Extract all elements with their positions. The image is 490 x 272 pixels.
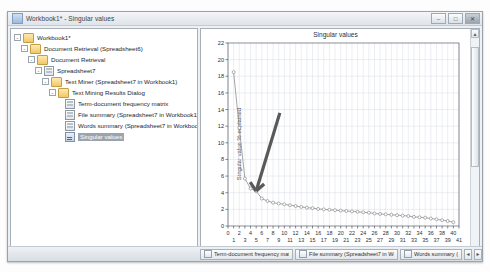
svg-text:8: 8 [221, 156, 224, 162]
graph-icon [65, 132, 75, 142]
svg-text:10: 10 [281, 230, 287, 236]
taskbar-buttons[interactable]: Term-document frequency matrixFile summa… [198, 249, 482, 260]
svg-text:29: 29 [388, 237, 394, 243]
svg-text:0: 0 [221, 223, 224, 229]
tree-item[interactable]: -Text Miner (Spreadsheet7 in Workbook1) [14, 76, 195, 87]
sheet-icon [65, 99, 75, 109]
taskbar-button[interactable]: Words summary (Spr [400, 249, 462, 260]
svg-text:31: 31 [400, 237, 406, 243]
taskbar-prev-icon[interactable]: ◄ [464, 249, 472, 260]
tree-item[interactable]: -Workbook1* [14, 32, 195, 43]
svg-text:20: 20 [218, 57, 224, 63]
svg-text:1: 1 [232, 237, 235, 243]
svg-text:25: 25 [366, 237, 372, 243]
collapse-icon[interactable]: - [35, 67, 42, 74]
svg-text:12: 12 [218, 123, 224, 129]
svg-text:4: 4 [221, 190, 224, 196]
sheet-icon [65, 110, 75, 120]
taskbar-button-label: File summary (Spreadsheet7 in Workbook1) [309, 251, 394, 257]
sheet-icon [204, 250, 212, 258]
tree-item-label: Words summary (Spreadsheet7 in Workbook1… [78, 122, 197, 130]
svg-text:26: 26 [371, 230, 377, 236]
tree-item[interactable]: Words summary (Spreadsheet7 in Workbook1… [14, 120, 195, 131]
taskbar-button[interactable]: Term-document frequency matrix [200, 249, 293, 260]
window-controls: – □ ✕ [431, 13, 480, 24]
svg-text:9: 9 [277, 237, 280, 243]
window-title: Workbook1* - Singular values [26, 15, 114, 22]
collapse-icon[interactable]: - [49, 89, 56, 96]
window-body: -Workbook1*-Document Retrieval (Spreadsh… [8, 26, 482, 262]
minimize-button[interactable]: – [431, 13, 446, 24]
tree-item-label: Term-document frequency matrix [78, 100, 168, 108]
collapse-icon[interactable]: - [21, 45, 28, 52]
svg-text:0: 0 [227, 230, 230, 236]
tree-item-label: File summary (Spreadsheet7 in Workbook1) [78, 111, 197, 119]
svg-text:41: 41 [456, 237, 462, 243]
folder-icon [30, 44, 41, 54]
tree-item[interactable]: -Text Mining Results Dialog [14, 87, 195, 98]
collapse-icon[interactable]: - [28, 56, 35, 63]
tree-item-label: Text Miner (Spreadsheet7 in Workbook1) [65, 78, 177, 86]
tree-item-label: Singular values [78, 133, 124, 141]
chart-scroll-thumb[interactable] [471, 47, 479, 167]
scree-plot: 0246810121416182022024681012141618202224… [201, 29, 467, 261]
svg-text:2: 2 [238, 230, 241, 236]
workbook-tree-panel: -Workbook1*-Document Retrieval (Spreadsh… [10, 28, 198, 260]
sheet-icon [44, 66, 54, 76]
tree-item[interactable]: Singular values [14, 131, 195, 142]
sheet-icon [65, 121, 75, 131]
folder-icon [37, 55, 48, 65]
tree-item[interactable]: -Document Retrieval [14, 54, 195, 65]
svg-text:30: 30 [394, 230, 400, 236]
tree-spacer [56, 111, 63, 118]
chart-panel: Singular values Singular value % explain… [200, 28, 480, 260]
svg-text:2: 2 [221, 206, 224, 212]
svg-text:13: 13 [298, 237, 304, 243]
svg-text:14: 14 [304, 230, 310, 236]
tree-item-label: Workbook1* [37, 34, 71, 42]
svg-text:4: 4 [249, 230, 252, 236]
taskbar-next-icon[interactable]: ► [474, 249, 482, 260]
svg-text:18: 18 [218, 73, 224, 79]
tree-item-label: Spreadsheet7 [57, 67, 96, 75]
taskbar-button-label: Words summary (Spr [414, 251, 458, 257]
scroll-up-arrow-icon[interactable]: ▲ [471, 29, 479, 38]
svg-text:23: 23 [355, 237, 361, 243]
tree-item[interactable]: File summary (Spreadsheet7 in Workbook1) [14, 109, 195, 120]
tree-item[interactable]: Term-document frequency matrix [14, 98, 195, 109]
svg-text:35: 35 [422, 237, 428, 243]
workbook-tree[interactable]: -Workbook1*-Document Retrieval (Spreadsh… [11, 29, 197, 249]
tree-item-label: Text Mining Results Dialog [72, 89, 145, 97]
svg-text:34: 34 [417, 230, 423, 236]
collapse-icon[interactable]: - [42, 78, 49, 85]
collapse-icon[interactable]: - [14, 34, 21, 41]
svg-text:36: 36 [428, 230, 434, 236]
maximize-button[interactable]: □ [448, 13, 463, 24]
close-button[interactable]: ✕ [465, 13, 480, 24]
svg-text:32: 32 [405, 230, 411, 236]
taskbar-button[interactable]: File summary (Spreadsheet7 in Workbook1) [295, 249, 398, 260]
svg-text:3: 3 [243, 237, 246, 243]
svg-text:16: 16 [315, 230, 321, 236]
taskbar: Term-document frequency matrixFile summa… [8, 246, 482, 261]
tree-item[interactable]: -Spreadsheet7 [14, 65, 195, 76]
tree-item[interactable]: -Document Retrieval (Spreadsheet6) [14, 43, 195, 54]
application-window: Workbook1* - Singular values – □ ✕ -Work… [7, 11, 483, 262]
taskbar-button-label: Term-document frequency matrix [214, 251, 289, 257]
tree-spacer [56, 133, 63, 140]
svg-text:20: 20 [338, 230, 344, 236]
svg-text:12: 12 [293, 230, 299, 236]
sheet-icon [299, 250, 307, 258]
chart-canvas: Singular values Singular value % explain… [201, 29, 470, 259]
tree-item-label: Document Retrieval [51, 56, 105, 64]
svg-text:18: 18 [326, 230, 332, 236]
folder-icon [58, 88, 69, 98]
svg-text:10: 10 [218, 140, 224, 146]
folder-icon [51, 77, 62, 87]
chart-vertical-scrollbar[interactable]: ▲ [470, 29, 479, 259]
svg-text:24: 24 [360, 230, 366, 236]
svg-text:22: 22 [349, 230, 355, 236]
svg-text:5: 5 [255, 237, 258, 243]
svg-text:14: 14 [218, 107, 224, 113]
svg-text:6: 6 [221, 173, 224, 179]
